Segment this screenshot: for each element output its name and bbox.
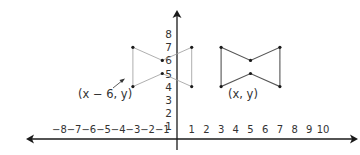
- x-tick-label: 1: [189, 124, 195, 135]
- y-tick-label: 3: [165, 94, 172, 106]
- x-tick-label: 9: [306, 124, 312, 135]
- translated-shape-label: (x − 6, y): [78, 87, 132, 101]
- x-tick-label: 2: [203, 124, 209, 135]
- y-tick-label: 1: [165, 120, 172, 132]
- x-tick-label: −6: [81, 124, 96, 135]
- vertex-point: [161, 59, 164, 62]
- x-tick-label: −4: [111, 124, 126, 135]
- vertex-point: [220, 46, 223, 49]
- vertex-point: [220, 85, 223, 88]
- coordinate-plane: −8−7−6−5−4−3−2−112345678910 12345678 (x …: [0, 0, 360, 155]
- vertex-point: [190, 85, 193, 88]
- y-tick-label: 2: [165, 107, 172, 119]
- x-tick-label: 10: [317, 124, 330, 135]
- vertex-point: [249, 59, 252, 62]
- vertex-point: [278, 46, 281, 49]
- x-tick-label: 3: [218, 124, 224, 135]
- x-tick-label: −5: [96, 124, 111, 135]
- vertex-point: [249, 72, 252, 75]
- translated-bowtie-shape: [131, 46, 193, 88]
- x-tick-label: −8: [52, 124, 67, 135]
- y-tick-label: 7: [165, 41, 172, 53]
- vertex-point: [161, 72, 164, 75]
- bowtie-outline: [133, 47, 192, 86]
- original-shape-label: (x, y): [228, 87, 258, 101]
- original-bowtie-shape: [220, 46, 282, 88]
- y-tick-label: 8: [165, 28, 172, 40]
- x-tick-label: 4: [233, 124, 239, 135]
- vertex-point: [190, 46, 193, 49]
- y-tick-label: 4: [165, 81, 172, 93]
- x-tick-label: 7: [277, 124, 283, 135]
- y-tick-labels: 12345678: [165, 28, 172, 132]
- bowtie-outline: [221, 47, 280, 86]
- coordinate-plane-diagram: −8−7−6−5−4−3−2−112345678910 12345678 (x …: [0, 0, 360, 155]
- x-tick-label: −3: [126, 124, 141, 135]
- x-tick-label: −7: [67, 124, 82, 135]
- x-tick-labels: −8−7−6−5−4−3−2−112345678910: [52, 124, 329, 135]
- vertex-point: [278, 85, 281, 88]
- x-tick-label: −2: [140, 124, 155, 135]
- vertex-point: [131, 46, 134, 49]
- x-tick-label: 6: [262, 124, 268, 135]
- x-tick-label: 5: [247, 124, 253, 135]
- x-tick-label: 8: [291, 124, 297, 135]
